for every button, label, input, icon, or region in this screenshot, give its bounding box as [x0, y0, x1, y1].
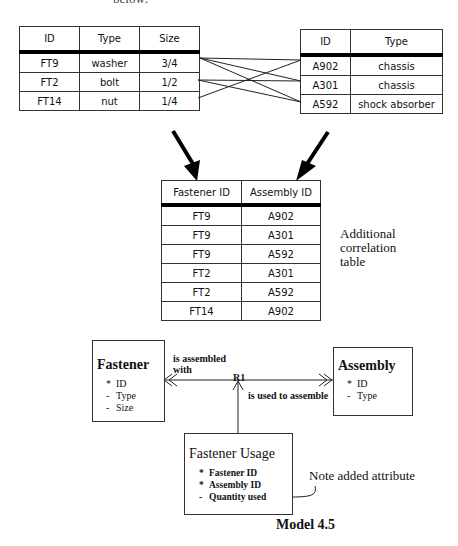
identifier-marker: *: [106, 378, 116, 390]
attribute-item: *ID: [106, 378, 136, 390]
entity-title: Fastener Usage: [189, 446, 275, 462]
relationship-phrase-right: is used to assemble: [248, 390, 328, 401]
attribute-list: *ID -Type -Size: [106, 378, 136, 414]
link-ft9-a902: [200, 58, 301, 60]
entity-fastener: Fastener *ID -Type -Size: [92, 340, 165, 422]
relationship-r1: [163, 374, 333, 433]
attribute-name: Assembly ID: [209, 480, 261, 490]
attribute-marker: -: [106, 402, 116, 414]
attribute-item: -Quantity used: [199, 491, 266, 503]
link-ft14-a902: [198, 60, 301, 98]
attribute-name: ID: [357, 378, 368, 389]
attribute-list: *Fastener ID *Assembly ID -Quantity used: [199, 467, 266, 503]
big-arrow-right: [296, 132, 328, 181]
attribute-list: *ID -Type: [347, 378, 377, 402]
attribute-name: Quantity used: [209, 492, 266, 502]
identifier-marker: *: [347, 378, 357, 390]
attribute-item: -Type: [347, 390, 377, 402]
attribute-marker: -: [106, 390, 116, 402]
attribute-name: ID: [116, 378, 127, 389]
entity-fastener-usage: Fastener Usage *Fastener ID *Assembly ID…: [184, 433, 293, 515]
attribute-name: Type: [116, 390, 136, 401]
attribute-name: Fastener ID: [209, 468, 257, 478]
link-ft2-a301: [198, 80, 301, 81]
phrase-line: is assembled: [173, 353, 226, 364]
attribute-marker: -: [347, 390, 357, 402]
attribute-name: Type: [357, 390, 377, 401]
big-arrow-left: [173, 131, 200, 181]
relationship-phrase-left: is assembled with: [173, 353, 226, 375]
entity-assembly: Assembly *ID -Type: [333, 347, 413, 416]
attribute-item: *Assembly ID: [199, 479, 266, 491]
entity-title: Assembly: [338, 358, 396, 374]
relationship-id: R1: [233, 372, 245, 383]
link-ft9-a301: [200, 58, 301, 81]
attribute-item: -Type: [106, 390, 136, 402]
attribute-item: *ID: [347, 378, 377, 390]
identifier-marker: *: [199, 479, 209, 491]
link-ft2-a592: [198, 80, 301, 102]
link-lines: [198, 58, 301, 102]
attribute-item: -Size: [106, 402, 136, 414]
attribute-marker: -: [199, 491, 209, 503]
model-caption: Model 4.5: [276, 519, 335, 530]
attribute-name: Size: [116, 402, 133, 413]
entity-title: Fastener: [97, 357, 149, 373]
phrase-line: with: [173, 364, 226, 375]
note-label: Note added attribute: [309, 470, 415, 481]
attribute-item: *Fastener ID: [199, 467, 266, 479]
identifier-marker: *: [199, 467, 209, 479]
